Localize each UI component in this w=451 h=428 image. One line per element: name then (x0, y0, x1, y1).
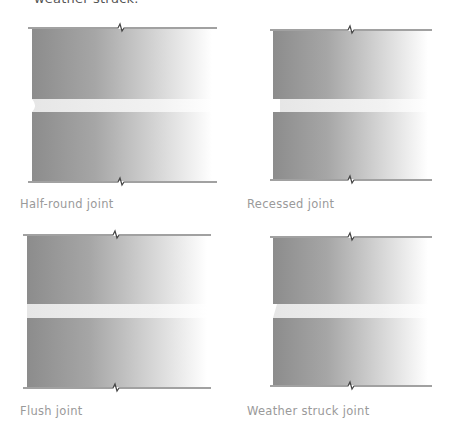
weather-struck-joint-label: Weather struck joint (247, 404, 369, 418)
weather-struck-joint-illustration (0, 0, 451, 428)
weather-struck-joint-diagram: Weather struck joint (0, 0, 451, 428)
